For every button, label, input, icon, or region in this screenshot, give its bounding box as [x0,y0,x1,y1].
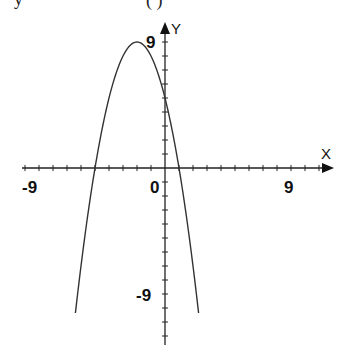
header-fragment-left: y [14,0,23,9]
x-axis-label: X [321,145,331,162]
y-axis-arrow-icon [160,22,170,34]
function-graph: y ( ) X Y -9 0 9 9 -9 [0,0,346,352]
x-tick-label-neg9: -9 [22,178,37,197]
x-tick-label-0: 0 [150,178,159,197]
y-axis: Y [160,20,181,345]
x-axis-arrow-icon [322,163,334,173]
parabola-curve [75,42,198,313]
y-axis-label: Y [171,20,181,37]
x-tick-label-9: 9 [284,178,293,197]
y-tick-label-neg9: -9 [136,286,151,305]
header-fragment-middle: ( ) [146,0,163,11]
